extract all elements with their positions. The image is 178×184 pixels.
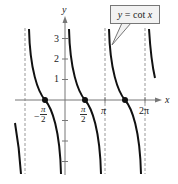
y-axis-label: y bbox=[62, 5, 66, 15]
y-tick-2: 2 bbox=[54, 54, 59, 64]
y-tick-3: 3 bbox=[54, 34, 59, 44]
x-tick-neg-sign: − bbox=[34, 112, 40, 122]
callout-pointer bbox=[112, 23, 131, 45]
y-tick-1: 1 bbox=[54, 74, 59, 84]
x-axis-arrow bbox=[155, 98, 162, 103]
x-tick-pi: π bbox=[101, 106, 106, 116]
x-tick-2pi: 2π bbox=[139, 106, 149, 116]
y-axis-arrow bbox=[63, 16, 68, 23]
x-tick-neg-pi-over-2: π2 bbox=[40, 105, 47, 124]
x-axis-label: x bbox=[165, 95, 169, 105]
cotangent-graph bbox=[0, 0, 178, 184]
function-label: y = cot x bbox=[110, 5, 160, 24]
x-tick-pi-over-2: π2 bbox=[80, 105, 87, 124]
